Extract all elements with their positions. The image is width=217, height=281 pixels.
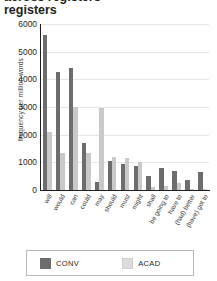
chart-title: across registers registers bbox=[4, 0, 214, 17]
bar-groups bbox=[41, 24, 209, 190]
y-tick-label: 2000 bbox=[1, 130, 37, 140]
bar-acad bbox=[190, 189, 194, 190]
x-tick-slot: must bbox=[119, 191, 132, 247]
bar-acad bbox=[73, 107, 77, 190]
y-tick-label: 1000 bbox=[1, 157, 37, 167]
y-tick-label: 3000 bbox=[1, 102, 37, 112]
x-tick-label: can bbox=[68, 193, 79, 206]
bar-group bbox=[170, 24, 183, 190]
legend-swatch-acad-icon bbox=[122, 258, 133, 269]
bar-acad bbox=[86, 153, 90, 190]
bar-group bbox=[144, 24, 157, 190]
x-tick-slot: could bbox=[80, 191, 93, 247]
x-tick-label: could bbox=[78, 193, 92, 210]
legend-label-conv: CONV bbox=[56, 259, 79, 268]
bar-group bbox=[196, 24, 209, 190]
x-tick-slot: might bbox=[131, 191, 144, 247]
bar-acad bbox=[203, 189, 207, 190]
bar-group bbox=[80, 24, 93, 190]
x-tick-slot: (have) got to bbox=[196, 191, 209, 247]
bar-acad bbox=[125, 158, 129, 190]
legend-swatch-conv-icon bbox=[40, 258, 51, 269]
x-tick-slot: be going to bbox=[157, 191, 170, 247]
bar-group bbox=[131, 24, 144, 190]
x-tick-label: may bbox=[93, 193, 105, 207]
bar-group bbox=[157, 24, 170, 190]
bar-acad bbox=[47, 132, 51, 190]
y-tick-label: 6000 bbox=[1, 19, 37, 29]
legend-item-conv: CONV bbox=[40, 258, 79, 269]
bar-group bbox=[106, 24, 119, 190]
bar-group bbox=[93, 24, 106, 190]
x-tick-label: would bbox=[52, 193, 67, 211]
legend-label-acad: ACAD bbox=[138, 259, 160, 268]
bar-group bbox=[183, 24, 196, 190]
x-tick-slot: will bbox=[41, 191, 54, 247]
x-tick-label: should bbox=[102, 193, 118, 213]
bar-acad bbox=[138, 162, 142, 190]
chart-title-line: registers bbox=[4, 4, 214, 17]
y-tick-label: 5000 bbox=[1, 47, 37, 57]
bar-group bbox=[119, 24, 132, 190]
chart-legend: CONV ACAD bbox=[26, 250, 194, 276]
x-tick-slot: would bbox=[54, 191, 67, 247]
bar-acad bbox=[60, 153, 64, 190]
bar-group bbox=[41, 24, 54, 190]
bar-acad bbox=[164, 186, 168, 190]
bar-acad bbox=[151, 187, 155, 190]
x-tick-slot: can bbox=[67, 191, 80, 247]
y-tick-label: 0 bbox=[1, 185, 37, 195]
chart-figure: across registers registers frequency per… bbox=[0, 0, 217, 281]
bar-group bbox=[67, 24, 80, 190]
bar-acad bbox=[112, 157, 116, 190]
legend-item-acad: ACAD bbox=[122, 258, 160, 269]
x-axis-ticks: willwouldcancouldmayshouldmustmightshall… bbox=[41, 191, 209, 247]
x-tick-label: might bbox=[130, 193, 144, 210]
bar-acad bbox=[177, 183, 181, 190]
x-tick-label: will bbox=[43, 193, 54, 204]
y-axis-ticks: 6000 5000 4000 3000 2000 1000 0 bbox=[0, 24, 37, 191]
bar-conv bbox=[198, 172, 202, 190]
bar-group bbox=[54, 24, 67, 190]
y-tick-label: 4000 bbox=[1, 74, 37, 84]
x-tick-slot: should bbox=[106, 191, 119, 247]
bar-acad bbox=[99, 108, 103, 190]
x-tick-slot: may bbox=[93, 191, 106, 247]
